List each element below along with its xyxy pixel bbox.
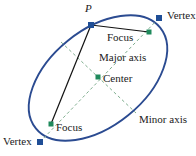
focus-lower-marker	[49, 122, 54, 127]
center-marker	[96, 75, 101, 80]
center-label: Center	[103, 73, 132, 84]
vertex-bottom-left-label: Vertex	[3, 136, 32, 147]
focus-lower-label: Focus	[56, 122, 82, 133]
major-axis-label: Major axis	[99, 52, 146, 63]
focus-upper-marker	[147, 30, 152, 35]
ellipse-diagram: P Vertex Focus Major axis Center Minor a…	[0, 0, 196, 156]
vertex-bottom-left-marker	[37, 139, 43, 145]
vertex-top-right-label: Vertex	[167, 10, 196, 21]
point-p-marker	[88, 22, 94, 28]
vertex-top-right-marker	[156, 15, 162, 21]
focus-upper-label: Focus	[107, 32, 133, 43]
minor-axis-label: Minor axis	[139, 114, 187, 125]
point-p-label: P	[85, 3, 92, 14]
diagram-canvas	[0, 0, 196, 156]
